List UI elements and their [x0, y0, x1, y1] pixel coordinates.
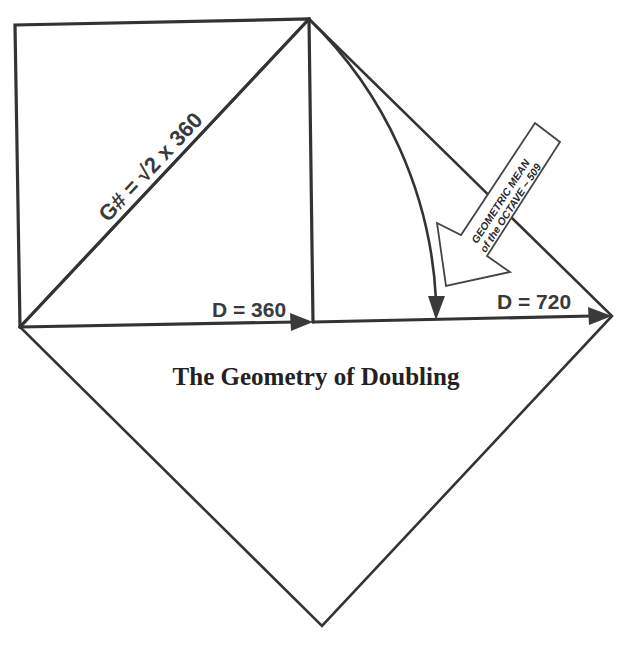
- geometric-mean-callout: GEOMETRIC MEAN of the OCTAVE ~ 509: [437, 123, 560, 286]
- arc-arrowhead-icon: [428, 296, 445, 320]
- arc-arrow: [309, 19, 436, 300]
- d720-arrowhead-icon: [588, 307, 612, 325]
- d720-arrow-shaft: [313, 316, 592, 322]
- diagram-title: The Geometry of Doubling: [173, 363, 460, 390]
- d720-label: D = 720: [497, 290, 571, 313]
- geometry-of-doubling-diagram: GEOMETRIC MEAN of the OCTAVE ~ 509 G# = …: [0, 0, 624, 646]
- d360-label: D = 360: [212, 298, 286, 321]
- d360-arrow-shaft: [20, 322, 296, 327]
- diagonal-label: G# = √2 x 360: [93, 107, 207, 226]
- d360-arrowhead-icon: [290, 313, 313, 331]
